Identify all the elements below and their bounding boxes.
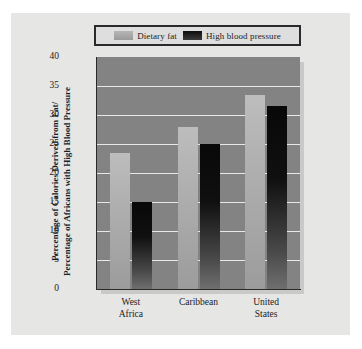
- bar-dietary-fat: [178, 127, 198, 289]
- bar-dietary-fat: [110, 153, 130, 289]
- x-axis-category-label: UnitedStates: [221, 297, 311, 320]
- bar-dietary-fat: [245, 95, 265, 289]
- legend-swatch-dietary-fat: [114, 31, 133, 40]
- bar-high-blood-pressure: [267, 106, 287, 289]
- y-axis-line: [96, 57, 97, 290]
- x-axis-line: [96, 289, 301, 290]
- y-axis-tick-label: 40: [19, 51, 59, 61]
- bar-high-blood-pressure: [200, 144, 220, 289]
- y-axis-tick-label: 0: [19, 283, 59, 293]
- x-axis-category-label-line: States: [221, 309, 311, 321]
- y-axis-tick-label: 25: [19, 138, 59, 148]
- legend-swatch-high-blood-pressure: [183, 31, 202, 40]
- y-axis-tick-label: 35: [19, 80, 59, 90]
- y-axis-tick-label: 5: [19, 254, 59, 264]
- bar-high-blood-pressure: [132, 202, 152, 289]
- chart-figure: Dietary fat High blood pressure Percenta…: [0, 0, 362, 349]
- x-axis-category-label-line: Africa: [86, 309, 176, 321]
- y-axis-tick-label: 20: [19, 167, 59, 177]
- legend-label-dietary-fat: Dietary fat: [137, 31, 177, 41]
- plot-area: [97, 57, 300, 289]
- chart-legend: Dietary fat High blood pressure: [94, 25, 301, 46]
- x-axis-category-label-line: United: [221, 297, 311, 309]
- y-axis-tick-label: 30: [19, 109, 59, 119]
- y-axis-tick-label: 10: [19, 225, 59, 235]
- legend-label-high-blood-pressure: High blood pressure: [206, 31, 281, 41]
- y-axis-title-line-2: Percentage of Africans with High Blood P…: [61, 57, 73, 307]
- y-axis-title: Percentage of Calories Derived from Fat/…: [50, 57, 73, 307]
- y-axis-tick-label: 15: [19, 196, 59, 206]
- y-axis-title-line-1: Percentage of Calories Derived from Fat/: [50, 57, 62, 307]
- legend-item-dietary-fat: Dietary fat: [114, 31, 177, 41]
- legend-item-high-blood-pressure: High blood pressure: [183, 31, 281, 41]
- gridline: [97, 86, 300, 87]
